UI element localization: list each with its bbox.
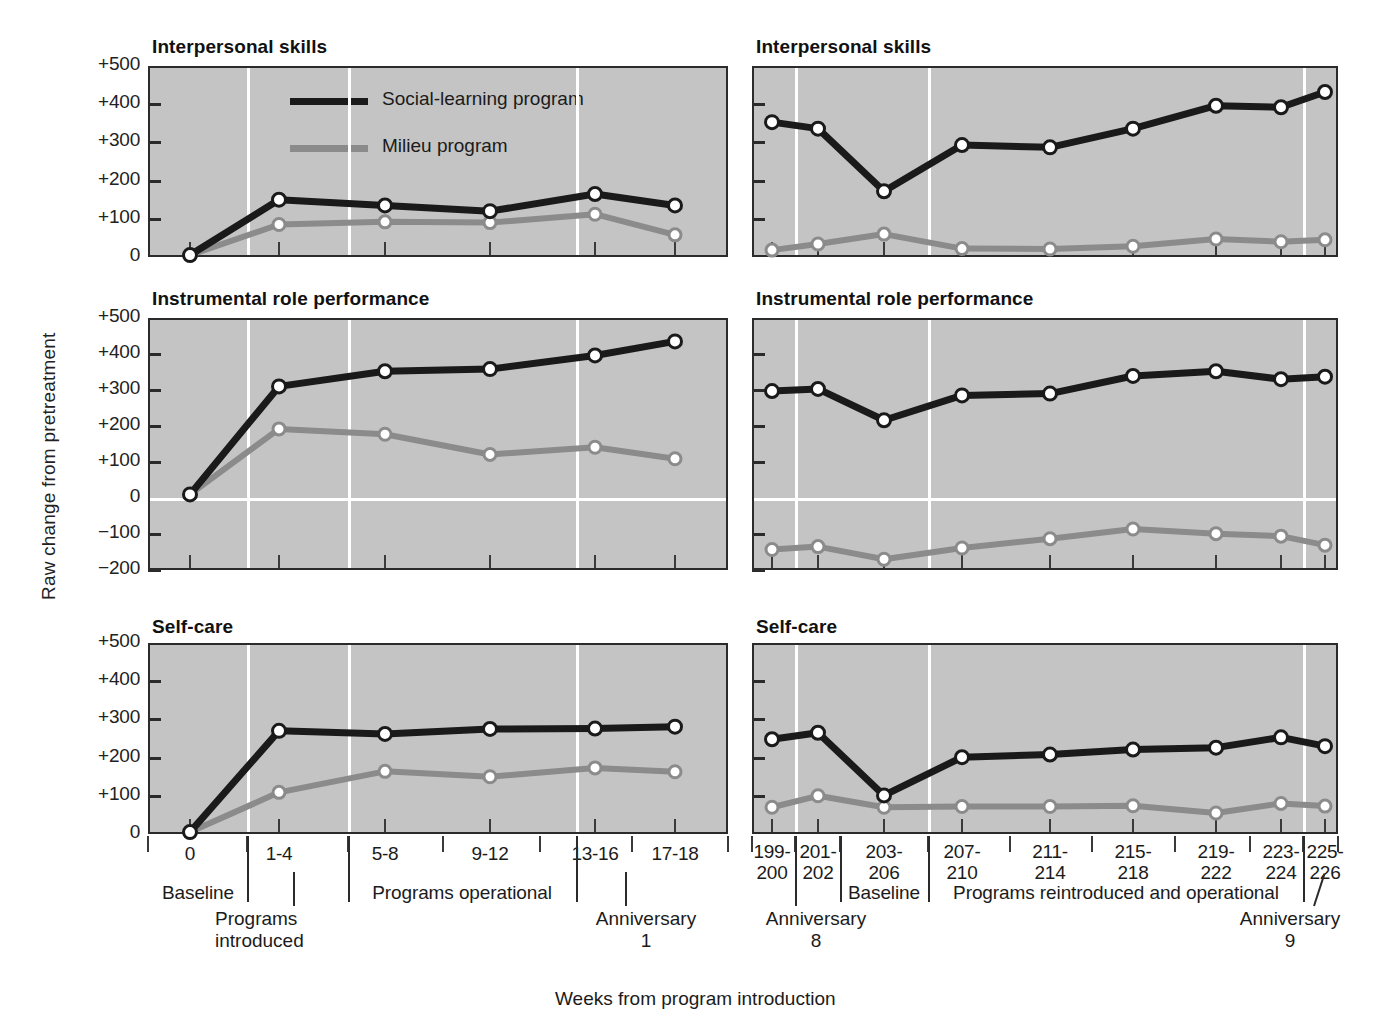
y-tick-mark <box>752 795 765 798</box>
annotation-line-2: introduced <box>215 930 375 952</box>
x-tick-outer <box>1009 836 1011 852</box>
x-category-label-left-0: 0 <box>142 843 238 865</box>
plot-divider-line-0 <box>795 68 798 255</box>
x-tick-inner <box>674 555 676 568</box>
plot-divider-line-0 <box>247 645 250 832</box>
figure-caption: Weeks from program introduction <box>555 988 836 1010</box>
x-category-line-top: 203- <box>849 841 919 862</box>
x-tick-inner <box>817 242 819 255</box>
legend-label-milieu: Milieu program <box>382 135 508 157</box>
plot-divider-line-1 <box>928 320 931 568</box>
x-tick-inner <box>961 242 963 255</box>
x-tick-inner <box>674 819 676 832</box>
annotation-tick-anniversary-8 <box>795 872 797 906</box>
x-category-label-left-5: 17-18 <box>627 843 723 865</box>
x-tick-inner <box>961 819 963 832</box>
legend-swatch-social-learning <box>290 98 368 105</box>
y-tick-mark <box>752 353 765 356</box>
y-tick-mark <box>148 795 161 798</box>
x-tick-inner <box>384 242 386 255</box>
segment-rule-right-3 <box>1303 836 1305 902</box>
y-tick-mark <box>752 461 765 464</box>
x-category-line-bottom: 210 <box>927 862 997 883</box>
x-tick-outer <box>1091 836 1093 852</box>
y-tick-mark <box>148 461 161 464</box>
y-tick-label: +300 <box>42 129 140 151</box>
x-category-line-bottom: 206 <box>849 862 919 883</box>
zero-reference-line <box>150 498 726 501</box>
annotation-programs-introduced: Programsintroduced <box>215 908 375 952</box>
y-tick-mark <box>752 425 765 428</box>
annotation-anniversary-9: Anniversary9 <box>1200 908 1380 952</box>
plot-divider-line-2 <box>1303 645 1306 832</box>
y-tick-label: +400 <box>42 668 140 690</box>
x-category-label-left-1: 1-4 <box>231 843 327 865</box>
annotation-line-2: 9 <box>1200 930 1380 952</box>
y-tick-label: 0 <box>42 244 140 266</box>
plot-divider-line-0 <box>247 320 250 568</box>
plot-area-right-instrumental <box>752 318 1338 570</box>
y-tick-mark <box>752 218 765 221</box>
segment-label-left-baseline: Baseline <box>150 882 246 904</box>
y-tick-mark <box>752 103 765 106</box>
x-category-line-bottom: 218 <box>1098 862 1168 883</box>
x-tick-inner <box>489 819 491 832</box>
x-category-label-right-6: 219-222 <box>1181 841 1251 884</box>
y-tick-label: +300 <box>42 377 140 399</box>
y-tick-label: −100 <box>42 521 140 543</box>
x-tick-inner <box>1132 555 1134 568</box>
plot-divider-line-2 <box>1303 320 1306 568</box>
plot-divider-line-0 <box>247 68 250 255</box>
y-tick-mark <box>752 389 765 392</box>
y-tick-mark <box>148 389 161 392</box>
zero-reference-line <box>754 498 1336 501</box>
y-tick-mark <box>752 141 765 144</box>
x-tick-inner <box>817 555 819 568</box>
y-tick-label: +200 <box>42 745 140 767</box>
x-category-line-top: 219- <box>1181 841 1251 862</box>
y-tick-label: −200 <box>42 557 140 579</box>
plot-area-right-selfcare <box>752 643 1338 834</box>
y-tick-label: +500 <box>42 305 140 327</box>
x-category-line-top: 225- <box>1290 841 1360 862</box>
y-tick-label: +400 <box>42 91 140 113</box>
x-category-line-top: 207- <box>927 841 997 862</box>
x-tick-inner <box>594 555 596 568</box>
segment-label-right-baseline: Baseline <box>841 882 927 904</box>
x-category-line-top: 211- <box>1015 841 1085 862</box>
annotation-line-1: Anniversary <box>1200 908 1380 930</box>
x-category-line-bottom: 214 <box>1015 862 1085 883</box>
plot-divider-line-0 <box>795 645 798 832</box>
y-tick-mark <box>148 425 161 428</box>
segment-label-left-operational: Programs operational <box>348 882 576 904</box>
plot-divider-line-0 <box>795 320 798 568</box>
y-tick-label: +200 <box>42 168 140 190</box>
x-category-line-top: 201- <box>783 841 853 862</box>
y-tick-mark <box>148 141 161 144</box>
y-tick-mark <box>148 718 161 721</box>
plot-divider-line-1 <box>928 645 931 832</box>
plot-divider-line-2 <box>1303 68 1306 255</box>
y-tick-label: +100 <box>42 449 140 471</box>
y-tick-label: +200 <box>42 413 140 435</box>
x-tick-inner <box>1132 819 1134 832</box>
panel-title-right-interpersonal: Interpersonal skills <box>756 36 931 58</box>
y-tick-label: +100 <box>42 783 140 805</box>
segment-label-right-reintroduced: Programs reintroduced and operational <box>930 882 1302 904</box>
x-tick-inner <box>1280 555 1282 568</box>
y-tick-mark <box>148 533 161 536</box>
plot-divider-line-2 <box>576 320 579 568</box>
x-tick-inner <box>1132 242 1134 255</box>
x-category-line-top: 215- <box>1098 841 1168 862</box>
plot-divider-line-2 <box>576 645 579 832</box>
x-tick-inner <box>489 555 491 568</box>
x-tick-inner <box>883 555 885 568</box>
legend-swatch-milieu <box>290 145 368 152</box>
annotation-line-1: Anniversary <box>566 908 726 930</box>
y-tick-mark <box>752 757 765 760</box>
x-tick-inner <box>1324 242 1326 255</box>
annotation-line-1: Anniversary <box>736 908 896 930</box>
x-tick-inner <box>189 819 191 832</box>
x-tick-inner <box>384 819 386 832</box>
y-tick-mark <box>752 680 765 683</box>
